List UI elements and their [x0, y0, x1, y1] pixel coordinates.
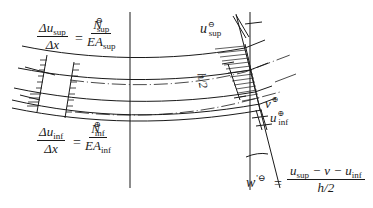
eq-sup-equals: = [75, 31, 83, 47]
eq-inf-equals: = [73, 135, 81, 151]
h2-dim-line [228, 64, 240, 100]
label-u-sup: u⊖sup [200, 22, 221, 36]
slice-left [37, 55, 47, 112]
left-stub-upper [25, 67, 55, 75]
upper-centerline [70, 55, 290, 85]
label-h-half: h/2 [195, 72, 209, 89]
eq-sup-lhs: Δusup Δx [37, 21, 68, 51]
lower-flange-bottom-edge [12, 98, 276, 115]
eq-rotation-lhs: w'⊖ [246, 176, 266, 190]
lower-flange-top-edge [14, 86, 272, 101]
eq-rotation-equals: = [274, 176, 282, 192]
rotation-angle-arc [246, 153, 268, 157]
eq-inf-rhs: N⊕inf EAinf [85, 122, 111, 152]
beam-diagram: Δusup Δx = N⊖sup EAsup Δuinf Δx = N⊕inf … [0, 0, 373, 208]
u-sup-tick-b [236, 15, 249, 37]
label-u-inf: u⊕inf [270, 111, 288, 124]
slice-right [65, 62, 74, 118]
label-v: v⊕ [265, 97, 278, 110]
u-sup-tick-a [233, 16, 246, 38]
eq-rotation-rhs: usup − v − uinf h/2 [287, 164, 365, 194]
left-stub-lower [20, 95, 40, 100]
eq-inf-lhs: Δuinf Δx [37, 125, 65, 155]
eq-sup-rhs: N⊖sup EAsup [87, 18, 115, 48]
